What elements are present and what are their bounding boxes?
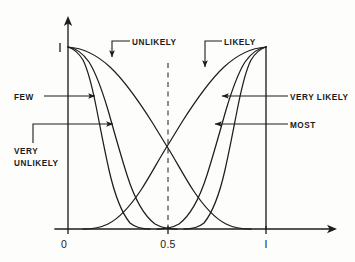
chart-svg: UNLIKELY LIKELY FEW VERY UNLIKELY VERY L…: [0, 0, 355, 262]
x-tick-label-0point5: 0.5: [160, 238, 176, 250]
x-tick-label-1: I: [264, 238, 267, 250]
most-label: MOST: [290, 121, 316, 130]
very-likely-label: VERY LIKELY: [290, 93, 349, 102]
few-label: FEW: [14, 93, 34, 102]
annotation-very-unlikely: VERY UNLIKELY: [14, 124, 113, 168]
increasing-curves: [83, 47, 266, 229]
fuzzy-probability-chart: UNLIKELY LIKELY FEW VERY UNLIKELY VERY L…: [0, 0, 355, 262]
likely-label: LIKELY: [224, 38, 256, 47]
curve-very-likely: [157, 47, 266, 229]
unlikely-label: UNLIKELY: [132, 38, 177, 47]
unlikely-leader-line: [112, 41, 130, 57]
very-unlikely-label-line1: VERY: [14, 147, 38, 156]
tick-labels: 0 0.5 I: [61, 238, 268, 250]
x-tick-label-0: 0: [61, 238, 67, 250]
decreasing-curves: [68, 47, 251, 229]
annotation-few: FEW: [14, 93, 95, 102]
tick-group: [60, 43, 266, 234]
annotation-likely: LIKELY: [205, 38, 256, 68]
curve-few: [68, 47, 177, 229]
annotation-unlikely: UNLIKELY: [112, 38, 177, 58]
very-unlikely-label-line2: UNLIKELY: [14, 159, 59, 168]
likely-leader-line: [205, 41, 222, 67]
